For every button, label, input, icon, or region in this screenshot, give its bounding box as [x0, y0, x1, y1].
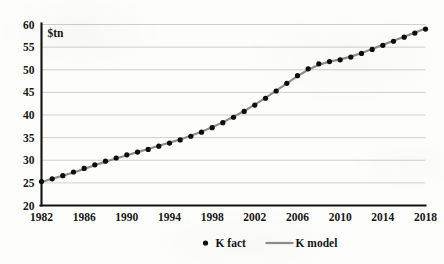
data-point-2008: [316, 61, 321, 66]
y-tick-label-25: 25: [23, 177, 35, 189]
data-point-1989: [114, 155, 119, 160]
data-point-1988: [103, 159, 108, 164]
data-point-1993: [156, 144, 161, 149]
gridlines-group: [42, 25, 426, 183]
data-point-2016: [402, 35, 407, 40]
x-tick-label-1986: 1986: [73, 211, 96, 223]
data-point-2017: [412, 30, 417, 35]
data-point-1992: [146, 147, 151, 152]
y-tick-label-60: 60: [23, 19, 35, 31]
y-axis-unit-label: $tn: [48, 27, 65, 39]
x-tick-label-2014: 2014: [371, 211, 394, 223]
x-tick-label-2010: 2010: [329, 211, 352, 223]
chart-canvas: $tn 202530354045505560 19821986199019941…: [0, 0, 444, 264]
y-tick-label-55: 55: [23, 41, 35, 53]
data-point-2011: [348, 54, 353, 59]
data-point-1994: [167, 140, 172, 145]
data-point-1996: [188, 134, 193, 139]
x-tick-label-2018: 2018: [414, 211, 437, 223]
y-tick-label-30: 30: [23, 154, 35, 166]
data-point-2012: [359, 51, 364, 56]
data-point-2007: [306, 66, 311, 71]
data-point-2006: [295, 73, 300, 78]
data-point-2005: [284, 81, 289, 86]
x-tick-label-2006: 2006: [286, 211, 309, 223]
data-point-1999: [220, 120, 225, 125]
data-point-2001: [242, 109, 247, 114]
chart-legend: K factK model: [203, 237, 337, 249]
data-point-1998: [210, 125, 215, 130]
y-tick-label-35: 35: [23, 132, 35, 144]
data-point-2002: [252, 102, 257, 107]
data-point-2003: [263, 96, 268, 101]
data-point-2018: [423, 26, 428, 31]
x-tick-label-1994: 1994: [158, 211, 181, 223]
data-point-1983: [50, 176, 55, 181]
y-tick-label-50: 50: [23, 64, 35, 76]
x-tick-label-1998: 1998: [201, 211, 224, 223]
x-tick-label-1990: 1990: [115, 211, 138, 223]
x-tick-labels-group: 1982198619901994199820022006201020142018: [30, 211, 437, 223]
data-point-1991: [135, 150, 140, 155]
data-point-2015: [391, 39, 396, 44]
y-tick-label-40: 40: [23, 109, 35, 121]
legend-label-k-model: K model: [296, 237, 338, 249]
data-point-1982: [39, 179, 44, 184]
data-point-2010: [338, 57, 343, 62]
data-point-1997: [199, 130, 204, 135]
data-point-2004: [274, 88, 279, 93]
data-point-1987: [92, 162, 97, 167]
legend-marker-k-fact: [203, 240, 208, 245]
data-point-2000: [231, 115, 236, 120]
legend-label-k-fact: K fact: [216, 237, 247, 249]
data-point-1985: [71, 169, 76, 174]
data-point-1984: [60, 173, 65, 178]
x-tick-label-1982: 1982: [30, 211, 53, 223]
series-line-k-model: [42, 29, 426, 182]
data-point-2009: [327, 59, 332, 64]
y-tick-labels-group: 202530354045505560: [23, 19, 35, 212]
x-tick-label-2002: 2002: [243, 211, 266, 223]
data-point-1986: [82, 166, 87, 171]
chart-figure: $tn 202530354045505560 19821986199019941…: [0, 0, 444, 264]
data-point-2014: [380, 43, 385, 48]
data-point-1995: [178, 137, 183, 142]
data-point-2013: [370, 47, 375, 52]
y-tick-label-45: 45: [23, 86, 35, 98]
data-point-1990: [124, 152, 129, 157]
